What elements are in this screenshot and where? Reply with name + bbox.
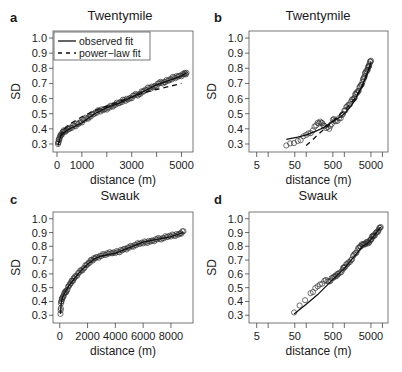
y-tick-label: 0.9 [228,227,243,239]
x-tick-label: 0 [57,330,63,342]
legend: observed fitpower−law fit [54,32,150,60]
panel-d: dSwauk0.30.40.50.60.70.80.91.05505005000… [205,188,388,358]
y-tick-label: 0.8 [228,240,243,252]
x-tick-label: 4000 [103,330,127,342]
x-tick-label: 5000 [359,159,383,171]
x-tick-label: 5 [254,330,260,342]
y-tick-label: 0.5 [32,108,47,120]
y-tick-label: 0.8 [32,62,47,74]
y-tick-label: 0.4 [228,123,243,135]
x-tick-label: 8000 [159,330,183,342]
x-tick-label: 6000 [131,330,155,342]
plot-frame [249,212,388,323]
x-tick-label: 3000 [119,159,143,171]
data-point [302,298,307,303]
x-tick-label: 5000 [359,330,383,342]
y-tick-label: 0.5 [228,108,243,120]
x-tick-label: 50 [289,330,301,342]
y-tick-label: 1.0 [32,213,47,225]
y-tick-label: 0.4 [32,123,47,135]
panel-letter: d [214,192,222,207]
y-tick-label: 0.3 [228,309,243,321]
figure: aTwentymile0.30.40.50.60.70.80.91.001000… [0,0,402,372]
y-tick-label: 0.7 [32,254,47,266]
y-tick-label: 1.0 [228,32,243,44]
x-tick-label: 5000 [169,159,193,171]
panel-c: cSwauk0.30.40.50.60.70.80.91.00200040006… [9,188,193,358]
y-tick-label: 0.7 [228,77,243,89]
y-tick-label: 0.6 [32,268,47,280]
y-tick-label: 1.0 [228,213,243,225]
y-tick-label: 0.8 [228,62,243,74]
y-tick-label: 0.9 [32,47,47,59]
y-axis-label: SD [205,259,219,276]
y-tick-label: 0.8 [32,240,47,252]
legend-entry-label: power−law fit [79,47,141,59]
plot-frame [53,212,193,323]
power-law-fit-line [306,64,371,146]
panel-letter: a [10,10,18,25]
y-tick-label: 0.4 [228,295,243,307]
observed-fit-line [61,233,184,314]
panel-a: aTwentymile0.30.40.50.60.70.80.91.001000… [9,8,194,187]
y-tick-label: 1.0 [32,32,47,44]
y-axis-label: SD [9,83,23,100]
y-tick-label: 0.6 [32,93,47,105]
y-tick-label: 0.3 [32,138,47,150]
y-tick-label: 0.4 [32,295,47,307]
x-tick-label: 500 [324,159,342,171]
y-tick-label: 0.3 [32,309,47,321]
y-tick-label: 0.3 [228,138,243,150]
y-tick-label: 0.7 [32,77,47,89]
legend-entry-label: observed fit [79,35,133,47]
panel-title: Twentymile [87,8,152,23]
x-tick-label: 1000 [70,159,94,171]
y-axis-label: SD [9,259,23,276]
x-axis-label: distance (m) [285,344,351,358]
y-tick-label: 0.5 [32,282,47,294]
x-axis-label: distance (m) [90,173,156,187]
y-tick-label: 0.7 [228,254,243,266]
y-axis-label: SD [205,83,219,100]
plot-frame [249,31,388,152]
panel-letter: c [10,192,17,207]
x-tick-label: 0 [54,159,60,171]
panel-title: Twentymile [285,8,350,23]
panel-letter: b [214,10,222,25]
x-tick-label: 500 [324,330,342,342]
panel-title: Swauk [298,188,338,203]
x-tick-label: 5 [254,159,260,171]
y-tick-label: 0.9 [32,227,47,239]
x-axis-label: distance (m) [90,344,156,358]
y-tick-label: 0.6 [228,93,243,105]
y-tick-label: 0.9 [228,47,243,59]
power-law-fit-line [58,83,182,145]
panel-b: bTwentymile0.30.40.50.60.70.80.91.055050… [205,8,388,187]
x-tick-label: 50 [289,159,301,171]
x-tick-label: 2000 [75,330,99,342]
panel-title: Swauk [100,188,140,203]
y-tick-label: 0.5 [228,282,243,294]
x-axis-label: distance (m) [285,173,351,187]
y-tick-label: 0.6 [228,268,243,280]
